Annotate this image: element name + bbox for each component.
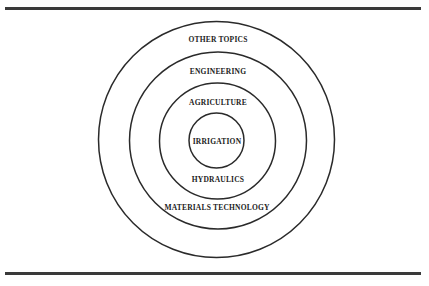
label-engineering: ENGINEERING xyxy=(190,67,246,76)
label-other-topics: OTHER TOPICS xyxy=(188,35,247,44)
concentric-diagram: OTHER TOPICS ENGINEERING AGRICULTURE IRR… xyxy=(0,0,429,286)
label-hydraulics: HYDRAULICS xyxy=(192,175,244,184)
label-materials-technology: MATERIALS TECHNOLOGY xyxy=(164,203,270,212)
label-irrigation: IRRIGATION xyxy=(193,137,242,146)
label-agriculture: AGRICULTURE xyxy=(189,98,247,107)
